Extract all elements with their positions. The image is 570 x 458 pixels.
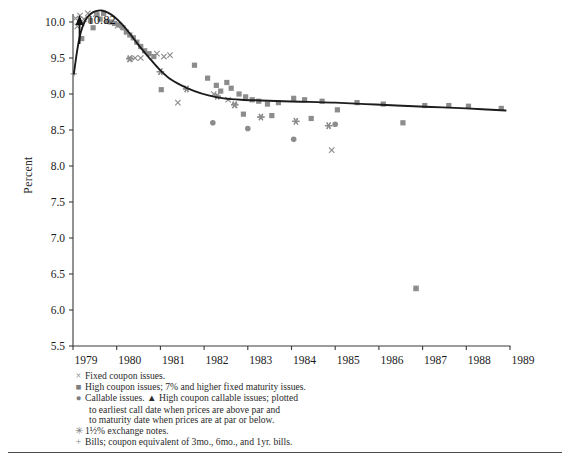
legend-item: ●Callable issues. ▲ High coupon callable… bbox=[72, 393, 502, 404]
data-point-cross bbox=[138, 55, 143, 60]
y-tick-label: 7.0 bbox=[31, 232, 65, 244]
data-point-asterisk bbox=[292, 118, 299, 124]
data-point-square bbox=[224, 80, 229, 85]
legend-item-label: Callable issues. ▲ High coupon callable … bbox=[85, 393, 502, 404]
data-point-cross bbox=[132, 55, 137, 60]
data-point-square bbox=[335, 107, 340, 112]
data-point-square bbox=[192, 63, 197, 68]
legend-item: ■High coupon issues; 7% and higher fixed… bbox=[72, 382, 502, 393]
circle-marker-icon: ● bbox=[72, 393, 85, 404]
cross-marker-icon: × bbox=[72, 371, 85, 382]
data-point-circle bbox=[291, 137, 297, 143]
y-tick-label: 7.5 bbox=[31, 196, 65, 208]
data-point-circle bbox=[245, 126, 251, 132]
chart-legend: ×Fixed coupon issues.■High coupon issues… bbox=[72, 371, 502, 448]
data-point-square bbox=[159, 87, 164, 92]
data-markers-layer bbox=[71, 11, 504, 292]
y-tick-label: 8.0 bbox=[31, 160, 65, 172]
data-point-square bbox=[265, 101, 270, 106]
data-point-square bbox=[241, 112, 246, 117]
legend-item-label: Fixed coupon issues. bbox=[85, 371, 502, 382]
data-point-cross bbox=[161, 54, 166, 59]
data-point-circle bbox=[210, 120, 216, 126]
y-tick-label: 9.0 bbox=[31, 88, 65, 100]
footer-rule bbox=[8, 452, 562, 453]
data-point-square bbox=[151, 54, 156, 59]
data-point-square bbox=[291, 96, 296, 101]
y-tick-label: 6.0 bbox=[31, 304, 65, 316]
data-point-square bbox=[205, 76, 210, 81]
y-tick-label: 6.5 bbox=[31, 268, 65, 280]
y-tick-label: 10.0 bbox=[31, 16, 65, 28]
legend-item: ×Fixed coupon issues. bbox=[72, 371, 502, 382]
data-point-cross bbox=[167, 52, 172, 57]
y-tick-label: 9.5 bbox=[31, 52, 65, 64]
data-point-asterisk bbox=[325, 122, 332, 128]
data-point-asterisk bbox=[231, 102, 238, 108]
legend-item-label: High coupon issues; 7% and higher fixed … bbox=[85, 382, 502, 393]
yield-curve-chart: Percent 5.56.06.57.07.58.08.59.09.510.0 … bbox=[0, 0, 570, 458]
square-marker-icon: ■ bbox=[72, 382, 85, 393]
legend-item-label: 1½% exchange notes. bbox=[85, 426, 502, 437]
data-point-asterisk bbox=[126, 56, 133, 62]
legend-item-label: Bills; coupon equivalent of 3mo., 6mo., … bbox=[85, 437, 502, 448]
legend-item: +Bills; coupon equivalent of 3mo., 6mo.,… bbox=[72, 437, 502, 448]
axes-layer bbox=[69, 14, 511, 350]
data-point-square bbox=[236, 91, 241, 96]
data-point-circle bbox=[332, 121, 338, 127]
plus-marker-icon: + bbox=[72, 437, 85, 448]
data-point-square bbox=[243, 94, 248, 99]
data-point-circle bbox=[413, 286, 419, 292]
peak-value-annotation: 10.82 bbox=[88, 13, 116, 28]
y-tick-label: 5.5 bbox=[31, 340, 65, 352]
legend-item: ✳1½% exchange notes. bbox=[72, 426, 502, 437]
x-tick-label: 1989 bbox=[493, 354, 553, 366]
data-point-square bbox=[400, 120, 405, 125]
data-point-cross bbox=[175, 100, 180, 105]
data-point-square bbox=[269, 113, 274, 118]
data-point-square bbox=[214, 83, 219, 88]
data-point-square bbox=[229, 86, 234, 91]
data-point-square bbox=[309, 116, 314, 121]
data-point-asterisk bbox=[257, 114, 264, 120]
asterisk-marker-icon: ✳ bbox=[72, 426, 85, 437]
y-tick-label: 8.5 bbox=[31, 124, 65, 136]
data-point-cross bbox=[329, 147, 334, 152]
